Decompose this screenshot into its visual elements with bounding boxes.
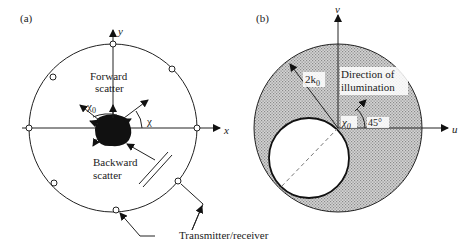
wavefront-line <box>139 152 168 184</box>
direction-label-1: Direction of <box>341 68 395 80</box>
transceiver-marker <box>194 125 200 131</box>
chi0-label: χ0 <box>86 100 96 115</box>
transceiver-marker <box>175 178 181 184</box>
scattering-object <box>95 115 131 147</box>
forward-scatter-label-2: scatter <box>95 82 124 94</box>
panel-b: (b) u v 2k0 Direction of illumination χ0… <box>254 3 458 212</box>
chi-label: χ <box>146 115 152 127</box>
transceiver-marker <box>26 125 32 131</box>
transceiver-marker <box>113 207 119 213</box>
transceiver-marker <box>169 66 175 72</box>
backward-scatter-label-2: scatter <box>93 169 122 181</box>
panel-a: (a) x y <box>20 12 269 241</box>
unmeasured-circle <box>269 118 349 198</box>
transceiver-callout-line <box>181 184 203 230</box>
v-axis-label: v <box>335 3 340 15</box>
transceiver-marker <box>50 74 56 80</box>
transceiver-callout-arrow <box>120 213 155 236</box>
forward-scatter-label-1: Forward <box>90 70 128 82</box>
backward-scatter-label-1: Backward <box>93 156 138 168</box>
transceiver-marker <box>110 41 116 47</box>
diagram-svg: (a) x y <box>0 0 475 252</box>
angle-45-label: 45° <box>368 117 382 128</box>
scatter-arrow <box>93 138 98 146</box>
transceiver-callout-arrow <box>192 206 202 230</box>
wavefront-line <box>143 155 172 187</box>
x-axis-label: x <box>223 124 229 136</box>
u-axis-label: u <box>452 123 458 135</box>
panel-a-tag: (a) <box>20 12 33 25</box>
panel-b-tag: (b) <box>256 12 269 25</box>
scatter-arrow <box>124 100 148 118</box>
figure: (a) x y <box>0 0 475 252</box>
transmitter-receiver-label: Transmitter/receiver <box>179 229 269 241</box>
chi-angle-arc <box>136 111 142 128</box>
y-axis-label: y <box>117 25 123 37</box>
transceiver-marker <box>51 180 57 186</box>
direction-label-2: illumination <box>341 81 395 93</box>
